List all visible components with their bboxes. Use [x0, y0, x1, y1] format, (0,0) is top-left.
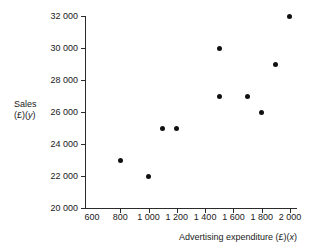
data-point [259, 110, 264, 115]
y-tick-mark [81, 176, 85, 177]
y-tick-label: 30 000 [50, 44, 78, 53]
y-tick-label: 24 000 [50, 140, 78, 149]
data-point [118, 158, 123, 163]
x-tick-label: 1 600 [222, 213, 245, 222]
y-tick-label: 22 000 [50, 172, 78, 181]
y-tick-mark [81, 80, 85, 81]
x-tick-label: 1 200 [166, 213, 189, 222]
x-axis-title-prefix: Advertising expenditure (£)( [179, 232, 290, 242]
y-tick-mark [81, 48, 85, 49]
x-tick-label: 1 400 [194, 213, 217, 222]
y-axis-title-suffix: ) [33, 110, 36, 120]
y-axis-line [85, 16, 86, 209]
data-point [273, 62, 278, 67]
data-point [217, 46, 222, 51]
x-axis-title-suffix: ) [294, 232, 297, 242]
y-tick-mark [81, 112, 85, 113]
y-axis-title-prefix: (£)( [14, 110, 28, 120]
data-point [146, 174, 151, 179]
y-tick-mark [81, 144, 85, 145]
y-axis-title: Sales (£)(y) [14, 99, 37, 121]
x-tick-label: 1 000 [137, 213, 160, 222]
y-tick-label: 32 000 [50, 12, 78, 21]
data-point [287, 14, 292, 19]
x-axis-title: Advertising expenditure (£)(x) [179, 232, 297, 242]
x-tick-label: 600 [85, 213, 100, 222]
data-point [245, 94, 250, 99]
y-axis-title-line2: (£)(y) [14, 110, 37, 121]
data-point [174, 126, 179, 131]
x-tick-label: 1 800 [250, 213, 273, 222]
data-point [160, 126, 165, 131]
x-axis-line [85, 208, 297, 209]
y-axis-title-line1: Sales [14, 99, 37, 109]
y-tick-mark [81, 16, 85, 17]
x-tick-label: 2 000 [279, 213, 302, 222]
y-tick-label: 26 000 [50, 108, 78, 117]
y-tick-label: 20 000 [50, 204, 78, 213]
data-point [217, 94, 222, 99]
y-axis-tick-labels: 20 00022 00024 00026 00028 00030 00032 0… [0, 0, 78, 251]
y-tick-label: 28 000 [50, 76, 78, 85]
scatter-chart: 20 00022 00024 00026 00028 00030 00032 0… [0, 0, 315, 251]
y-tick-mark [81, 208, 85, 209]
x-tick-label: 800 [113, 213, 128, 222]
